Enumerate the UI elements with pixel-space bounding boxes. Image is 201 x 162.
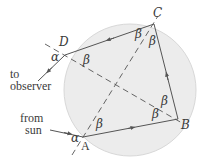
angle-beta-d: β [82, 53, 90, 67]
label-point-a: A [81, 139, 90, 153]
angle-beta-c-left: β [134, 27, 142, 41]
label-sun: sun [25, 123, 42, 137]
angle-beta-a: β [95, 117, 103, 131]
label-point-c: C [153, 6, 162, 20]
label-observer: observer [10, 79, 51, 93]
angle-alpha-d: α [51, 50, 59, 64]
angle-alpha-a: α [71, 131, 79, 145]
rainbow-diagram: C D B A α β β β β β β α to observer from… [0, 0, 201, 162]
angle-beta-c-right: β [148, 34, 156, 48]
label-point-b: B [180, 118, 190, 132]
angle-beta-b-lower: β [151, 107, 159, 121]
angle-beta-b-upper: β [160, 94, 168, 108]
label-point-d: D [58, 35, 69, 49]
